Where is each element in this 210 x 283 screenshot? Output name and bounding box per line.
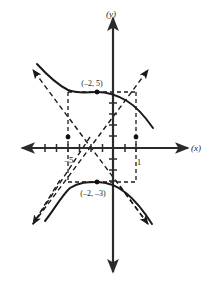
box-midpoint-right [134,135,139,140]
x-tick-label-neg5: –5 [64,155,75,165]
y-axis-label: (y) [106,9,116,19]
x-axis-label: (x) [191,143,201,153]
plot-canvas: (y) (x) –5 1 (–2, 5) (–2, –3) [0,0,210,283]
vertex-upper-point [95,90,100,95]
marked-points [66,90,139,185]
asymptote-positive-slope-arrow-low [33,180,60,224]
hyperbola-figure: (y) (x) –5 1 (–2, 5) (–2, –3) [0,0,210,283]
axes-group [22,18,188,272]
lower-vertex-label: (–2, –3) [80,189,106,198]
vertex-lower-point [95,180,100,185]
box-midpoint-left [66,135,71,140]
x-tick-label-pos1: 1 [137,157,142,167]
central-box [68,92,136,182]
upper-vertex-label: (–2, 5) [81,79,103,88]
